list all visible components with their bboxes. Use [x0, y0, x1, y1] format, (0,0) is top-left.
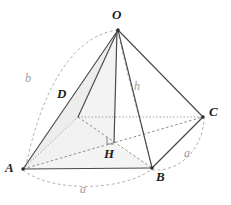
vertex-label-C: C	[209, 105, 218, 118]
arc-a-bottom	[23, 169, 152, 186]
vertex-dot-O	[116, 28, 119, 31]
shaded-faces	[23, 30, 152, 169]
vertex-label-B: B	[156, 170, 165, 183]
vertex-dot-C	[201, 115, 204, 118]
vertex-label-H: H	[104, 147, 114, 160]
edge-OB	[118, 30, 152, 168]
vertex-dot-B	[150, 166, 153, 169]
geometry-figure: O A B C D H b h a a	[0, 0, 231, 205]
arc-a-right	[152, 118, 204, 170]
vertex-label-O: O	[112, 8, 121, 21]
measure-label-a-right: a	[184, 147, 190, 159]
measure-label-h: h	[134, 80, 140, 92]
measure-label-a-bottom: a	[80, 183, 86, 195]
pyramid-diagram	[0, 0, 231, 205]
edge-OC	[118, 30, 203, 117]
vertex-label-D: D	[57, 87, 66, 100]
vertex-dot-A	[21, 167, 24, 170]
vertex-label-A: A	[5, 161, 14, 174]
measure-label-b: b	[25, 72, 31, 84]
